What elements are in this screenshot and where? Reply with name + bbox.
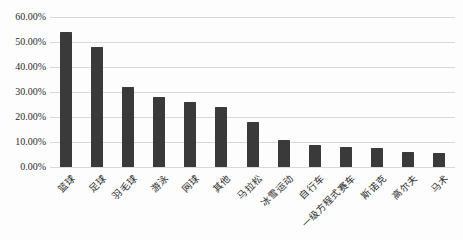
x-tick-label: 马拉松 bbox=[235, 173, 263, 201]
x-tick-label: 冰雪运动 bbox=[259, 173, 294, 208]
y-tick-label: 30.00% bbox=[0, 87, 46, 97]
y-tick-label: 50.00% bbox=[0, 37, 46, 47]
x-tick-label: 游泳 bbox=[149, 173, 170, 194]
x-tick-label: 篮球 bbox=[55, 173, 76, 194]
bar-4 bbox=[153, 97, 165, 167]
x-tick-label: 斯诺克 bbox=[360, 173, 388, 201]
x-tick-label: 网球 bbox=[180, 173, 201, 194]
bar-3 bbox=[122, 87, 134, 167]
gridline bbox=[50, 92, 455, 93]
bar-1 bbox=[60, 32, 72, 167]
gridline bbox=[50, 42, 455, 43]
bar-7 bbox=[247, 122, 259, 167]
gridline bbox=[50, 67, 455, 68]
bar-9 bbox=[309, 145, 321, 168]
bar-6 bbox=[215, 107, 227, 167]
gridline bbox=[50, 117, 455, 118]
x-tick-label: 羽毛球 bbox=[111, 173, 139, 201]
x-tick-label: 其他 bbox=[211, 173, 232, 194]
x-tick-label: 马术 bbox=[429, 173, 450, 194]
bar-10 bbox=[340, 147, 352, 167]
y-tick-label: 60.00% bbox=[0, 12, 46, 22]
gridline bbox=[50, 17, 455, 18]
x-tick-label: 高尔夫 bbox=[391, 173, 419, 201]
plot-area bbox=[50, 17, 455, 167]
bar-5 bbox=[184, 102, 196, 167]
bar-12 bbox=[402, 152, 414, 167]
bar-13 bbox=[433, 153, 445, 167]
x-tick-label: 自行车 bbox=[298, 173, 326, 201]
y-tick-label: 40.00% bbox=[0, 62, 46, 72]
y-tick-label: 0.00% bbox=[0, 162, 46, 172]
x-tick-label: 足球 bbox=[87, 173, 108, 194]
bar-2 bbox=[91, 47, 103, 167]
bar-8 bbox=[278, 140, 290, 168]
gridline bbox=[50, 167, 455, 168]
bar-chart-figure: 0.00%10.00%20.00%30.00%40.00%50.00%60.00… bbox=[0, 0, 463, 240]
bar-11 bbox=[371, 148, 383, 167]
y-tick-label: 10.00% bbox=[0, 137, 46, 147]
y-tick-label: 20.00% bbox=[0, 112, 46, 122]
